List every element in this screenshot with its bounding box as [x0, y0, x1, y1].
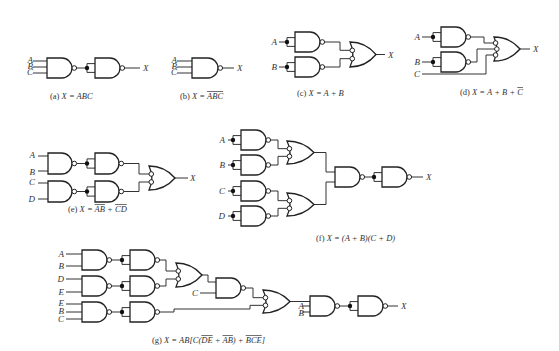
junction-dot: [231, 189, 235, 193]
inversion-bubble: [263, 303, 268, 308]
wire: [271, 191, 288, 201]
input-label-a: A: [271, 37, 278, 47]
input-label-x: X: [425, 172, 432, 182]
input-label-c: C: [29, 177, 36, 187]
nand-gate: [241, 130, 266, 150]
inversion-bubble: [320, 40, 325, 45]
inversion-bubble: [335, 304, 340, 309]
nand-gate: [441, 52, 466, 72]
or-gate: [350, 42, 376, 67]
inversion-bubble: [155, 258, 160, 263]
input-label-b: B: [30, 167, 36, 177]
junction-dot: [231, 163, 235, 167]
caption-d: (d) X = A + B + C: [460, 87, 523, 97]
nand-gate: [48, 153, 72, 174]
input-label-b: B: [220, 160, 226, 170]
junction-dot: [431, 60, 435, 64]
input-label-b: B: [272, 62, 278, 72]
input-label-a: A: [219, 135, 226, 145]
inversion-bubble: [107, 310, 112, 315]
junction-dot: [85, 189, 89, 193]
input-label-a: A: [58, 249, 65, 259]
wire: [124, 182, 149, 192]
or-gate: [149, 166, 175, 190]
wire: [471, 37, 494, 43]
nand-gate: [382, 167, 407, 187]
inversion-bubble: [360, 175, 365, 180]
wire: [271, 156, 288, 165]
input-label-b: B: [59, 261, 65, 271]
inversion-bubble: [155, 284, 160, 289]
nand-gate: [95, 153, 119, 174]
inversion-bubble: [176, 277, 181, 282]
caption-c: (c) X = A + B: [297, 88, 344, 98]
nand-gate: [82, 302, 107, 322]
wire: [160, 305, 264, 312]
inversion-bubble: [266, 138, 271, 143]
nand-gate: [130, 302, 155, 322]
nand-gate: [335, 167, 360, 187]
inversion-bubble: [155, 310, 160, 315]
input-label-x: X: [142, 63, 149, 73]
junction-dot: [348, 304, 352, 308]
junction-dot: [120, 284, 124, 288]
input-label-b: B: [415, 57, 421, 67]
input-label-d: D: [28, 194, 36, 204]
inversion-bubble: [266, 214, 271, 219]
caption-g: (g) X = AB[C(DE + AB) + BCE]: [152, 335, 265, 345]
input-label-c: C: [27, 67, 34, 77]
input-label-d: D: [218, 211, 226, 221]
junction-dot: [231, 138, 235, 142]
gates: [47, 27, 520, 322]
input-label-d: D: [57, 274, 65, 284]
inversion-bubble: [466, 35, 471, 40]
wire: [246, 288, 264, 298]
inversion-bubble: [266, 189, 271, 194]
junction-dot: [120, 258, 124, 262]
nand-gate: [241, 181, 266, 201]
inversion-bubble: [350, 56, 355, 61]
input-label-c: C: [219, 186, 226, 196]
input-label-x: X: [189, 173, 196, 183]
input-label-c: C: [192, 288, 199, 298]
input-label-c: C: [58, 314, 65, 324]
nand-gate: [48, 181, 72, 202]
wire: [314, 182, 335, 205]
caption-a: (a) X = ABC: [50, 91, 93, 101]
inversion-bubble: [119, 189, 124, 194]
caption-e: (e) X = AB + CD: [68, 204, 128, 214]
nand-equivalence-diagram: ABCXABCXABXABCXABCDXABCDXABDEEBCCABX (a)…: [0, 0, 559, 351]
or-gate: [287, 193, 314, 216]
inversion-bubble: [149, 172, 154, 177]
wire: [202, 275, 216, 282]
nand-gate: [241, 206, 266, 226]
input-label-x: X: [400, 301, 407, 311]
input-label-x: X: [387, 50, 394, 60]
inversion-bubble: [287, 198, 292, 203]
inversion-bubble: [120, 66, 125, 71]
nand-gate: [47, 58, 72, 78]
wire: [314, 153, 335, 173]
nand-gate: [216, 278, 241, 298]
nand-gate: [241, 155, 266, 175]
input-label-a: A: [414, 32, 421, 42]
junction-dot: [120, 310, 124, 314]
inversion-bubble: [495, 47, 500, 52]
inversion-bubble: [149, 180, 154, 185]
inversion-bubble: [72, 161, 77, 166]
inversion-bubble: [263, 295, 268, 300]
or-gate: [263, 290, 290, 313]
wire: [325, 42, 350, 50]
input-label-e: E: [58, 287, 65, 297]
wire: [124, 164, 149, 175]
inversion-bubble: [493, 41, 498, 46]
inversion-bubble: [383, 304, 388, 309]
inversion-bubble: [287, 146, 292, 151]
wire: [325, 59, 350, 67]
junction-dot: [285, 40, 289, 44]
nand-gate: [95, 58, 120, 78]
nand-gate: [295, 57, 320, 77]
junction-dot: [372, 175, 376, 179]
input-label-x: X: [236, 63, 243, 73]
junction-dot: [85, 66, 89, 70]
